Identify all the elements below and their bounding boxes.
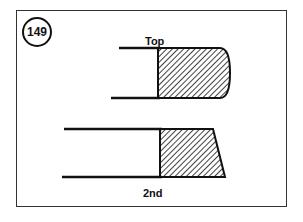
ring-profiles-diagram (0, 0, 303, 222)
second-ring-profile (62, 129, 225, 177)
top-ring-profile (111, 48, 230, 98)
